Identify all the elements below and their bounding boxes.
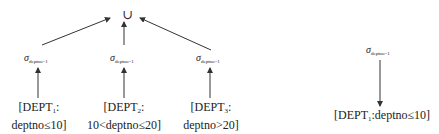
fragment-dept1-reduced: [DEPT1:deptno≤10] bbox=[334, 108, 430, 126]
fragment-colon: : bbox=[56, 100, 59, 114]
selection-condition: deptno=1 bbox=[371, 51, 390, 56]
selection-node-2: σdeptno=1 bbox=[110, 52, 134, 64]
fragment-dept2: [DEPT2: 10<deptno≤20] bbox=[84, 100, 164, 132]
selection-node-3: σdeptno=1 bbox=[196, 52, 220, 64]
fragment-name: [DEPT bbox=[19, 100, 53, 114]
fragment-predicate: deptno>20] bbox=[180, 118, 242, 132]
selection-condition: deptno=1 bbox=[201, 59, 220, 64]
fragment-name: [DEPT bbox=[104, 100, 138, 114]
fragment-dept1: [DEPT1: deptno≤10] bbox=[8, 100, 70, 132]
selection-node-1: σdeptno=1 bbox=[24, 52, 48, 64]
fragment-name: [DEPT bbox=[191, 100, 225, 114]
selection-condition: deptno=1 bbox=[115, 59, 134, 64]
selection-node-right: σdeptno=1 bbox=[366, 44, 390, 56]
fragment-colon: : bbox=[141, 100, 144, 114]
selection-condition: deptno=1 bbox=[29, 59, 48, 64]
fragment-colon: : bbox=[228, 100, 231, 114]
fragment-predicate: 10<deptno≤20] bbox=[84, 118, 164, 132]
fragment-predicate: deptno≤10] bbox=[8, 118, 70, 132]
fragment-predicate: :deptno≤10] bbox=[372, 108, 431, 122]
union-operator: ∪ bbox=[118, 8, 138, 21]
fragment-name: [DEPT bbox=[334, 108, 368, 122]
fragment-dept3: [DEPT3: deptno>20] bbox=[180, 100, 242, 132]
